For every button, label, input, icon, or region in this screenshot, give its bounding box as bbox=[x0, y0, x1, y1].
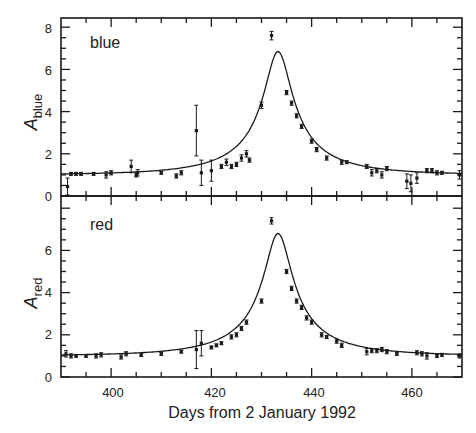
data-point bbox=[229, 335, 233, 339]
bottom-y-axis-title: Ared bbox=[21, 278, 45, 310]
data-point bbox=[234, 333, 238, 337]
data-point bbox=[239, 155, 243, 161]
bottom-panel-red bbox=[61, 196, 462, 377]
data-point bbox=[244, 151, 248, 157]
data-point bbox=[74, 172, 78, 175]
data-point bbox=[380, 172, 384, 178]
data-point bbox=[370, 170, 374, 176]
data-point bbox=[99, 353, 103, 357]
data-point bbox=[234, 162, 238, 166]
data-point bbox=[405, 174, 409, 189]
bottom-y-tick-6: 6 bbox=[45, 243, 52, 258]
data-point bbox=[285, 269, 289, 273]
fit-curve bbox=[61, 52, 462, 174]
data-point bbox=[435, 354, 439, 357]
data-point bbox=[84, 354, 88, 357]
panel-label-blue: blue bbox=[90, 34, 120, 51]
bottom-y-tick-4: 4 bbox=[45, 285, 52, 300]
data-point bbox=[430, 169, 434, 173]
data-point bbox=[214, 344, 218, 347]
data-point bbox=[74, 354, 78, 357]
data-point bbox=[244, 320, 248, 324]
bottom-y-tick-0: 0 bbox=[45, 370, 52, 385]
data-point bbox=[415, 351, 419, 355]
data-point bbox=[315, 147, 319, 151]
data-point bbox=[209, 346, 213, 349]
light-curve-figure: Ablue Ared blue red 400 420 440 460 Days… bbox=[0, 0, 476, 433]
data-point bbox=[159, 352, 163, 355]
data-point bbox=[395, 352, 399, 355]
data-point bbox=[239, 326, 243, 330]
data-point bbox=[194, 105, 198, 156]
data-point bbox=[209, 160, 213, 181]
data-point bbox=[179, 350, 183, 353]
data-point bbox=[139, 353, 143, 356]
data-point bbox=[194, 331, 198, 369]
data-point bbox=[119, 355, 123, 359]
data-point bbox=[69, 354, 73, 358]
data-point bbox=[247, 158, 251, 162]
top-panel-blue bbox=[61, 18, 462, 196]
data-point bbox=[290, 286, 294, 290]
data-point bbox=[457, 354, 461, 358]
data-point bbox=[300, 124, 304, 128]
data-point bbox=[260, 299, 264, 303]
x-tick-460: 460 bbox=[401, 385, 423, 400]
data-point bbox=[415, 173, 419, 184]
top-y-axis-main: A bbox=[21, 118, 41, 131]
top-y-tick-6: 6 bbox=[45, 63, 52, 78]
bottom-y-tick-2: 2 bbox=[45, 327, 52, 342]
data-point bbox=[375, 169, 379, 173]
data-point bbox=[420, 352, 424, 356]
data-point bbox=[66, 178, 70, 195]
top-y-tick-0: 0 bbox=[45, 189, 52, 204]
data-point bbox=[370, 349, 374, 353]
data-point bbox=[129, 160, 133, 173]
data-point bbox=[295, 299, 299, 303]
data-point bbox=[174, 174, 178, 178]
data-point bbox=[124, 352, 128, 356]
data-point bbox=[340, 160, 344, 164]
data-point bbox=[310, 139, 314, 143]
data-point bbox=[325, 335, 329, 338]
data-point bbox=[335, 339, 339, 343]
data-point bbox=[320, 333, 324, 337]
data-point bbox=[270, 31, 274, 39]
data-point bbox=[340, 343, 344, 347]
fit-curve bbox=[61, 234, 462, 355]
data-point bbox=[385, 166, 389, 170]
data-point bbox=[285, 91, 289, 95]
data-point bbox=[179, 171, 183, 175]
top-y-tick-8: 8 bbox=[45, 21, 52, 36]
bottom-y-axis-sub: red bbox=[30, 278, 45, 297]
data-point bbox=[365, 164, 369, 168]
top-y-tick-4: 4 bbox=[45, 105, 52, 120]
data-point bbox=[199, 331, 203, 356]
x-tick-400: 400 bbox=[102, 385, 124, 400]
data-point bbox=[290, 101, 294, 105]
data-point bbox=[219, 342, 223, 345]
data-point bbox=[325, 156, 329, 160]
data-point bbox=[92, 172, 96, 175]
data-point bbox=[440, 171, 444, 174]
data-point bbox=[69, 172, 73, 175]
data-point bbox=[224, 159, 228, 165]
data-point bbox=[295, 114, 299, 118]
data-point bbox=[440, 353, 444, 356]
data-point bbox=[345, 161, 349, 164]
data-point bbox=[94, 354, 98, 358]
data-point bbox=[219, 164, 223, 168]
top-y-axis-title: Ablue bbox=[21, 94, 45, 132]
data-point bbox=[365, 349, 369, 355]
x-tick-420: 420 bbox=[204, 385, 226, 400]
top-y-axis-sub: blue bbox=[30, 94, 45, 119]
x-tick-440: 440 bbox=[303, 385, 325, 400]
data-point bbox=[300, 305, 304, 309]
bottom-y-axis-main: A bbox=[21, 296, 41, 309]
data-point bbox=[229, 164, 233, 168]
data-point bbox=[375, 349, 379, 353]
data-point bbox=[385, 350, 389, 354]
data-point bbox=[310, 320, 314, 324]
data-point bbox=[425, 169, 429, 173]
data-point bbox=[270, 218, 274, 224]
